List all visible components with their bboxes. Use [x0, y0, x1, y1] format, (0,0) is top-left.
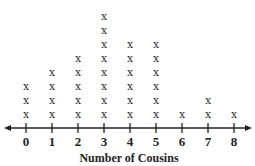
tick-label: 2 [75, 134, 82, 149]
x-mark: x [127, 66, 134, 79]
x-mark: x [101, 66, 108, 79]
line-plot-svg: xxxxxxxxxxxxxxxxxxxxxxxxxxxxxxxxxxxx 012… [0, 0, 255, 166]
x-mark: x [49, 94, 56, 107]
x-mark: x [153, 52, 160, 65]
x-mark: x [75, 94, 82, 107]
x-mark: x [75, 52, 82, 65]
x-mark: x [101, 52, 108, 65]
x-mark: x [75, 108, 82, 121]
tick-label: 5 [153, 134, 160, 149]
tick-label: 0 [23, 134, 30, 149]
x-mark: x [153, 108, 160, 121]
x-mark: x [101, 80, 108, 93]
x-marks: xxxxxxxxxxxxxxxxxxxxxxxxxxxxxxxxxxxx [23, 10, 238, 121]
x-mark: x [153, 38, 160, 51]
x-mark: x [101, 24, 108, 37]
x-mark: x [23, 108, 30, 121]
x-mark: x [127, 108, 134, 121]
line-plot-chart: xxxxxxxxxxxxxxxxxxxxxxxxxxxxxxxxxxxx 012… [0, 0, 255, 166]
x-mark: x [101, 38, 108, 51]
x-mark: x [49, 80, 56, 93]
x-mark: x [127, 52, 134, 65]
x-mark: x [127, 80, 134, 93]
right-arrow-icon [245, 125, 252, 131]
left-arrow-icon [4, 125, 11, 131]
x-mark: x [205, 108, 212, 121]
x-mark: x [231, 108, 238, 121]
x-mark: x [23, 94, 30, 107]
tick-label: 1 [49, 134, 56, 149]
x-mark: x [127, 38, 134, 51]
x-mark: x [49, 108, 56, 121]
x-mark: x [205, 94, 212, 107]
number-line: 012345678 [4, 123, 252, 149]
x-mark: x [101, 108, 108, 121]
tick-label: 6 [179, 134, 186, 149]
tick-label: 7 [205, 134, 212, 149]
x-mark: x [127, 94, 134, 107]
x-mark: x [153, 66, 160, 79]
ticks: 012345678 [23, 123, 238, 149]
x-mark: x [101, 10, 108, 23]
x-mark: x [23, 80, 30, 93]
x-axis-title: Number of Cousins [79, 151, 178, 165]
x-mark: x [153, 94, 160, 107]
x-mark: x [49, 66, 56, 79]
tick-label: 8 [231, 134, 238, 149]
x-mark: x [75, 66, 82, 79]
x-mark: x [75, 80, 82, 93]
x-mark: x [179, 108, 186, 121]
tick-label: 4 [127, 134, 134, 149]
x-mark: x [153, 80, 160, 93]
tick-label: 3 [101, 134, 108, 149]
x-mark: x [101, 94, 108, 107]
